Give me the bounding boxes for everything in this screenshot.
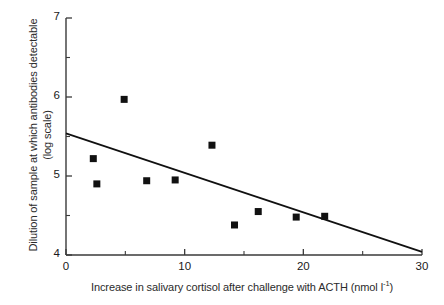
- data-point-marker: [208, 142, 215, 149]
- scatter-plot-figure: Dilution of sample at which antibodies d…: [0, 0, 444, 305]
- x-tick-label: 20: [291, 260, 315, 272]
- x-axis-label-text: Increase in salivary cortisol after chal…: [91, 281, 383, 293]
- trend-line: [66, 133, 422, 252]
- data-point-marker: [231, 221, 238, 228]
- data-point-marker: [321, 213, 328, 220]
- y-axis-label-line-1: Dilution of sample at which antibodies d…: [26, 10, 40, 260]
- axes: [66, 18, 422, 255]
- regression-line: [66, 133, 422, 252]
- data-point-marker: [293, 214, 300, 221]
- y-tick-label: 5: [40, 168, 60, 180]
- x-axis-label: Increase in salivary cortisol after chal…: [40, 281, 444, 293]
- y-tick-label: 4: [40, 247, 60, 259]
- axis-ticks: [66, 18, 422, 255]
- y-axis-label-line-2: (log scale): [40, 10, 54, 260]
- x-axis-label-tail: ): [389, 281, 393, 293]
- y-tick-label: 7: [40, 10, 60, 22]
- data-point-marker: [255, 208, 262, 215]
- data-point-marker: [90, 155, 97, 162]
- data-point-marker: [121, 96, 128, 103]
- y-axis-label: Dilution of sample at which antibodies d…: [26, 10, 60, 260]
- x-tick-label: 10: [173, 260, 197, 272]
- data-point-marker: [143, 177, 150, 184]
- y-tick-label: 6: [40, 89, 60, 101]
- x-tick-label: 0: [54, 260, 78, 272]
- data-point-marker: [93, 180, 100, 187]
- x-tick-label: 30: [410, 260, 434, 272]
- data-point-marker: [172, 176, 179, 183]
